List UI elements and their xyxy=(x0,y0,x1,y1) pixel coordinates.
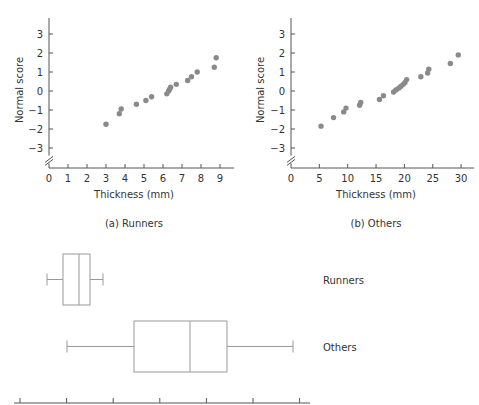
data-point xyxy=(143,98,148,103)
y-tick-label: 3 xyxy=(37,29,43,40)
x-tick-label: 30 xyxy=(455,173,468,184)
others-y-axis-label: Normal score xyxy=(255,57,266,123)
x-tick-label: 2 xyxy=(84,173,90,184)
x-tick-label: 15 xyxy=(370,173,383,184)
x-tick-label: 8 xyxy=(198,173,204,184)
data-point xyxy=(404,77,409,82)
y-tick-label: 0 xyxy=(37,86,43,97)
y-tick-label: 2 xyxy=(37,48,43,59)
figure: −3−2−101230123456789 Thickness (mm) (a) … xyxy=(0,0,479,405)
data-point xyxy=(426,66,431,71)
others-x-axis-label: Thickness (mm) xyxy=(335,189,416,200)
data-point xyxy=(343,105,348,110)
x-tick-label: 1 xyxy=(65,173,71,184)
y-tick-label: 1 xyxy=(279,67,285,78)
data-point xyxy=(174,82,179,87)
runners-normal-plot: −3−2−101230123456789 xyxy=(28,18,234,184)
data-point xyxy=(318,123,323,128)
iqr-box xyxy=(134,321,227,372)
boxplot-runners xyxy=(47,254,103,305)
y-tick-label: −1 xyxy=(28,105,43,116)
data-point xyxy=(381,93,386,98)
x-tick-label: 25 xyxy=(426,173,439,184)
data-point xyxy=(214,55,219,60)
runners-y-axis-label: Normal score xyxy=(14,57,25,123)
y-tick-label: 0 xyxy=(279,86,285,97)
data-point xyxy=(119,106,124,111)
boxplot-others xyxy=(67,321,293,372)
data-point xyxy=(189,74,194,79)
runners-caption: (a) Runners xyxy=(105,218,163,229)
data-point xyxy=(456,52,461,57)
iqr-box xyxy=(63,254,90,305)
box-label-runners: Runners xyxy=(323,275,364,286)
x-tick-label: 4 xyxy=(122,173,128,184)
x-tick-label: 10 xyxy=(341,173,354,184)
y-tick-label: −1 xyxy=(270,105,285,116)
boxplot-panel xyxy=(14,254,310,403)
x-tick-label: 5 xyxy=(316,173,322,184)
axis-break-mark xyxy=(45,156,53,162)
runners-x-axis-label: Thickness (mm) xyxy=(93,189,174,200)
others-caption: (b) Others xyxy=(351,218,402,229)
x-tick-label: 20 xyxy=(398,173,411,184)
data-point xyxy=(377,97,382,102)
y-tick-label: −3 xyxy=(28,143,43,154)
others-normal-plot: −3−2−10123051015202530 xyxy=(270,18,474,184)
data-point xyxy=(212,65,217,70)
data-point xyxy=(168,85,173,90)
data-point xyxy=(331,115,336,120)
x-tick-label: 0 xyxy=(288,173,294,184)
data-point xyxy=(358,100,363,105)
y-tick-label: −2 xyxy=(28,124,43,135)
data-point xyxy=(448,61,453,66)
x-tick-label: 6 xyxy=(160,173,166,184)
y-tick-label: 1 xyxy=(37,67,43,78)
x-tick-label: 5 xyxy=(141,173,147,184)
data-point xyxy=(134,102,139,107)
y-tick-label: −2 xyxy=(270,124,285,135)
data-point xyxy=(149,94,154,99)
y-tick-label: 2 xyxy=(279,48,285,59)
y-tick-label: 3 xyxy=(279,29,285,40)
data-point xyxy=(103,122,108,127)
x-tick-label: 0 xyxy=(46,173,52,184)
x-tick-label: 3 xyxy=(103,173,109,184)
x-tick-label: 7 xyxy=(179,173,185,184)
x-tick-label: 9 xyxy=(217,173,223,184)
data-point xyxy=(195,69,200,74)
axis-break-mark xyxy=(287,156,295,162)
box-label-others: Others xyxy=(323,342,357,353)
data-point xyxy=(418,74,423,79)
data-point xyxy=(117,111,122,116)
y-tick-label: −3 xyxy=(270,143,285,154)
data-point xyxy=(185,78,190,83)
